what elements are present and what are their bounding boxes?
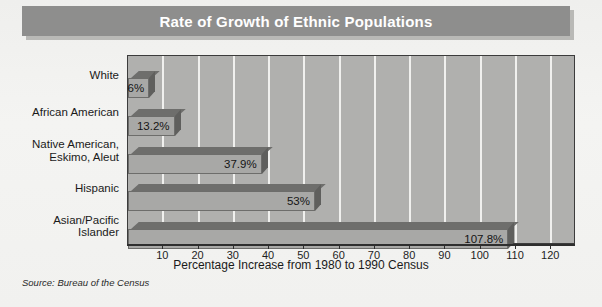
chart-title-banner: Rate of Growth of Ethnic Populations [22,6,570,36]
bar-value-label: 13.2% [137,120,174,132]
bar-front-face: 37.9% [128,154,262,174]
bar-top-face [131,147,272,154]
bar-top-face [131,222,519,229]
bar-value-label: 37.9% [224,158,261,170]
gridline-80 [409,56,411,243]
scan-bleed-artifact [20,300,320,307]
x-axis-line [127,244,575,246]
gridline-100 [480,56,482,243]
bar-top-face [131,184,326,191]
bar-side-face [315,185,321,212]
bar-front-face: 6% [128,78,149,98]
bar: 37.9% [128,147,268,174]
bar-side-face [149,71,155,98]
gridline-50 [303,56,305,243]
category-label: Hispanic [75,182,119,195]
category-label: African American [32,106,119,119]
bar-value-label: 53% [287,195,314,207]
bar-top-face [131,71,160,78]
page-background: Rate of Growth of Ethnic Populations Whi… [0,0,602,307]
gridline-90 [444,56,446,243]
bar-value-label: 6% [128,82,149,94]
category-axis-labels: WhiteAfrican AmericanNative American, Es… [19,55,123,244]
source-note: Source: Bureau of the Census [22,277,149,288]
plot-area: 6%13.2%37.9%53%107.8% [127,55,575,244]
gridline-60 [339,56,341,243]
bar: 13.2% [128,109,181,136]
category-label: Asian/Pacific Islander [53,214,119,239]
x-axis-title: Percentage Increase from 1980 to 1990 Ce… [0,258,602,272]
gridline-70 [374,56,376,243]
bar-front-face: 13.2% [128,116,175,136]
bar: 53% [128,184,321,211]
bar-front-face: 53% [128,191,315,211]
bar: 6% [128,71,155,98]
chart-area: WhiteAfrican AmericanNative American, Es… [19,46,579,261]
category-label: White [90,69,119,82]
gridline-110 [515,56,517,243]
gridline-120 [550,56,552,243]
category-label: Native American, Eskimo, Aleut [32,138,119,163]
page-title: Rate of Growth of Ethnic Populations [159,13,432,30]
bar-front-face: 107.8% [128,229,508,249]
